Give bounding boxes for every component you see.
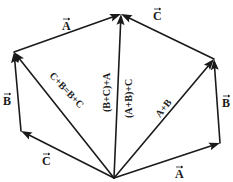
- diagram-canvas: A C B B C: [0, 0, 233, 182]
- label-c-bottom: C: [42, 153, 51, 169]
- vector-shaft: [15, 61, 21, 131]
- label-b-right: B: [222, 95, 230, 111]
- label-a-bottom: A: [175, 166, 184, 182]
- label-b-left: B: [3, 93, 11, 109]
- vector-C-bottom: [21, 131, 114, 178]
- vector-B-left: [11, 52, 21, 131]
- label-text: C: [42, 154, 51, 168]
- vector-shaft: [20, 59, 114, 178]
- vector-addition-diagram: A C B B C: [0, 0, 233, 182]
- label-text: B: [222, 96, 230, 110]
- label-a-top: A: [62, 18, 71, 34]
- vector-A-bottom: [114, 143, 220, 178]
- vector-B-right: [211, 59, 220, 143]
- label-a-plus-b-diagonal: A+B: [153, 97, 174, 119]
- label-text: A: [62, 19, 71, 33]
- label-text: A: [175, 167, 184, 181]
- vector-shaft: [114, 23, 121, 178]
- label-b-plus-c-plus-a-vertical: (B+C)+A: [101, 72, 113, 112]
- vector-shaft: [114, 146, 211, 178]
- vector-shaft: [215, 68, 220, 143]
- label-c-plus-b-diagonal: C+B=B+C: [48, 70, 87, 110]
- label-text: C: [153, 9, 162, 23]
- label-a-plus-b-plus-c-vertical: (A+B)+C: [123, 79, 135, 118]
- vector-C-top-right: [121, 14, 214, 59]
- vector-shaft: [129, 18, 214, 59]
- label-text: B: [3, 94, 11, 108]
- vector-sum-C-B: [14, 52, 114, 178]
- label-c-top: C: [153, 8, 162, 24]
